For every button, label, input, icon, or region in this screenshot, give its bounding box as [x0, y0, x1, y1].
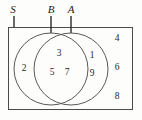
element-intersection-3: 3 — [57, 48, 62, 58]
circle-set-a — [34, 33, 108, 105]
element-outside-4: 4 — [115, 33, 120, 43]
venn-diagram-canvas: S B A 2 3 5 7 1 9 4 6 8 — [0, 0, 142, 120]
label-set-a: A — [67, 3, 75, 15]
label-universe-s: S — [10, 3, 16, 15]
element-outside-6: 6 — [115, 62, 120, 72]
element-intersection-7: 7 — [65, 67, 70, 77]
element-a-only-9: 9 — [90, 68, 95, 78]
element-outside-8: 8 — [115, 91, 120, 101]
label-set-b: B — [48, 3, 55, 15]
element-a-only-1: 1 — [90, 50, 95, 60]
element-intersection-5: 5 — [50, 67, 55, 77]
venn-diagram-figure: S B A 2 3 5 7 1 9 4 6 8 — [0, 0, 142, 120]
element-b-only-2: 2 — [22, 63, 27, 73]
